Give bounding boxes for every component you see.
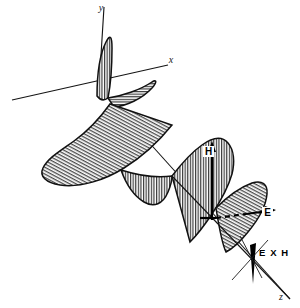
em-wave-figure: y x z H E E X H	[0, 0, 300, 308]
vector-label-H: H	[205, 146, 212, 157]
vector-label-E: E	[264, 207, 271, 218]
vector-label-ExH: E X H	[259, 247, 289, 258]
axis-label-x: x	[168, 54, 174, 65]
axis-label-y: y	[98, 2, 104, 13]
axis-label-z: z	[278, 291, 283, 302]
em-wave-diagram: y x z H E E X H	[0, 0, 300, 308]
